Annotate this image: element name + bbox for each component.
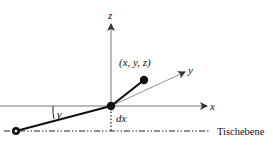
angle-gamma-label: γ — [57, 108, 62, 120]
origin-joint — [107, 102, 115, 110]
table-plane-label: Tischebene — [217, 126, 265, 137]
point-label: (x, y, z) — [119, 56, 151, 69]
lower-link — [16, 106, 111, 131]
dx-label: dx — [116, 112, 127, 124]
y-axis — [111, 72, 185, 106]
y-axis-label: y — [187, 64, 193, 76]
kinematic-diagram: z x y (x, y, z) γ dx Tischebene — [0, 0, 273, 149]
z-axis-label: z — [107, 9, 113, 21]
angle-gamma-arc — [53, 106, 54, 119]
end-point — [140, 76, 148, 84]
x-axis-label: x — [209, 100, 215, 112]
base-joint-center — [15, 130, 18, 133]
